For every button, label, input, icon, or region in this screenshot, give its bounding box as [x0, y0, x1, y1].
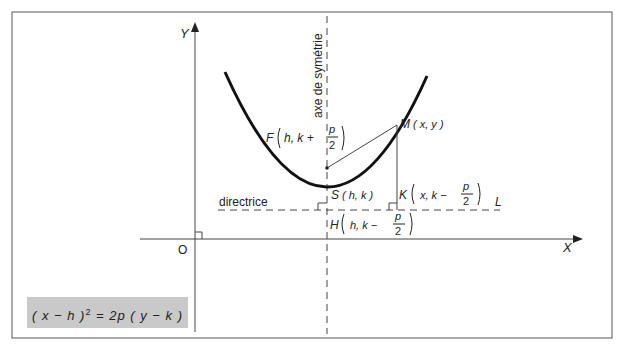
formula-box: ( x − h )2 = 2p ( y − k )	[27, 297, 188, 328]
focus-point	[325, 166, 329, 170]
svg-text:h, k −: h, k −	[350, 219, 378, 231]
h-right-angle-icon	[318, 203, 327, 210]
point-m-label: M ( x, y )	[400, 117, 444, 131]
parabola-diagram: Y X O axe de symétrie directrice L F h, …	[0, 0, 619, 344]
svg-text:h, k +: h, k +	[284, 131, 314, 145]
y-axis-label: Y	[180, 26, 190, 41]
formula-left: ( x − h )	[32, 308, 85, 323]
svg-text:x, k −: x, k −	[419, 189, 447, 201]
point-s-label: S ( h, k )	[331, 188, 374, 202]
directrix-l-label: L	[495, 195, 502, 209]
svg-text:M: M	[400, 117, 410, 131]
svg-text:p: p	[328, 123, 335, 135]
point-h-label: H h, k − p 2	[330, 210, 412, 237]
svg-text:S: S	[331, 188, 339, 202]
svg-text:2: 2	[329, 139, 335, 151]
svg-text:K: K	[399, 188, 408, 202]
directrix-label: directrice	[219, 195, 268, 209]
k-right-angle-icon	[389, 203, 397, 210]
origin-right-angle-icon	[195, 232, 202, 239]
formula-right: = 2p ( y − k )	[91, 308, 183, 323]
svg-text:p: p	[462, 180, 469, 192]
x-axis-arrow-icon	[573, 235, 583, 243]
svg-text:p: p	[394, 210, 401, 222]
y-axis-arrow-icon	[191, 22, 199, 32]
svg-text:H: H	[330, 218, 339, 232]
parabola-equation: ( x − h )2 = 2p ( y − k )	[27, 297, 188, 328]
point-k-label: K x, k − p 2	[399, 180, 480, 207]
svg-text:( h, k ): ( h, k )	[342, 189, 374, 201]
symmetry-axis-label: axe de symétrie	[311, 33, 325, 118]
point-f-label: F h, k + p 2	[266, 123, 344, 151]
origin-label: O	[178, 243, 187, 257]
svg-text:2: 2	[463, 195, 469, 207]
svg-text:( x, y ): ( x, y )	[413, 118, 444, 130]
svg-text:2: 2	[395, 225, 401, 237]
x-axis-label: X	[562, 240, 573, 255]
svg-text:F: F	[266, 131, 274, 145]
